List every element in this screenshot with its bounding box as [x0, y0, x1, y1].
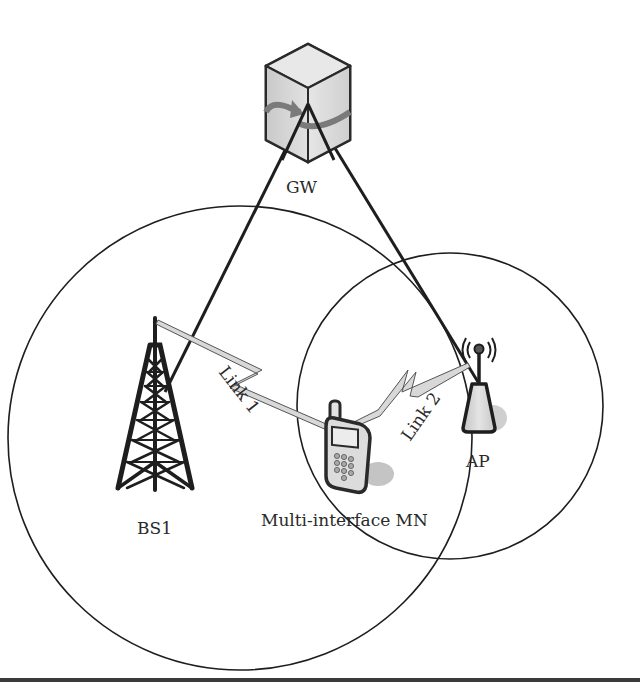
bs1-coverage-circle [8, 206, 472, 670]
bs1-label: BS1 [137, 518, 172, 538]
mobile-phone-icon [326, 401, 394, 492]
bottom-divider [0, 678, 640, 682]
network-diagram: GW BS1 Link 1 Link 2 Multi-interface MN [0, 0, 640, 695]
mobile-node-label: Multi-interface MN [261, 510, 428, 530]
wireless-link-1-bolt [156, 320, 340, 434]
link-2-label: Link 2 [397, 388, 444, 444]
gw-label: GW [286, 177, 318, 197]
server-cube-icon [266, 44, 350, 162]
ap-label: AP [465, 451, 490, 471]
cell-tower-icon [118, 318, 192, 490]
wireless-access-point-icon [463, 338, 508, 432]
